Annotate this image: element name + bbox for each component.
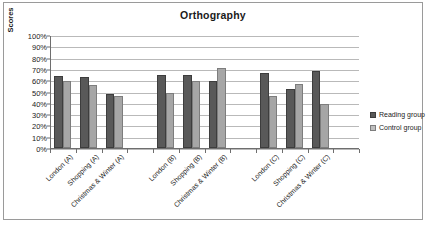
bar <box>89 85 97 148</box>
y-tick-label: 90% <box>32 43 47 52</box>
bar <box>80 77 88 148</box>
bar <box>217 68 225 148</box>
y-tick-label: 60% <box>32 77 47 86</box>
bar <box>312 71 320 148</box>
bar <box>166 93 174 148</box>
x-tick-mark <box>359 149 360 153</box>
bar <box>295 84 303 148</box>
legend-item-reading-group: Reading group <box>370 111 428 118</box>
bar <box>54 76 62 148</box>
bar <box>260 73 268 148</box>
legend-label-reading-group: Reading group <box>379 111 425 118</box>
x-tick-label: Christmas & Winter (B) <box>173 153 229 209</box>
bars-layer <box>50 36 359 149</box>
y-tick-label: 80% <box>32 54 47 63</box>
y-axis-label: Scores <box>6 0 20 43</box>
x-axis-labels: London (A)Shopping (A)Christmas & Winter… <box>50 153 359 223</box>
bar <box>157 75 165 148</box>
y-tick-label: 0% <box>36 145 47 154</box>
bar <box>63 81 71 148</box>
legend-label-control-group: Control group <box>379 124 421 131</box>
bar <box>286 89 294 148</box>
chart-screenshot: Orthography Scores 100%90%80%70%60%50%40… <box>0 0 429 227</box>
bar <box>183 75 191 148</box>
legend-swatch-icon-control-group <box>370 125 376 131</box>
chart-legend: Reading group Control group <box>370 111 428 137</box>
y-tick-label: 70% <box>32 65 47 74</box>
legend-item-control-group: Control group <box>370 124 428 131</box>
y-tick-label: 20% <box>32 122 47 131</box>
y-tick-label: 10% <box>32 133 47 142</box>
chart-title: Orthography <box>4 9 422 21</box>
bar <box>192 81 200 148</box>
bar <box>114 96 122 148</box>
bar <box>106 94 114 148</box>
bar <box>209 81 217 148</box>
x-tick-label: Christmas & Winter (C) <box>275 153 331 209</box>
plot-area: 100%90%80%70%60%50%40%30%20%10%0% <box>50 36 359 149</box>
bar <box>320 104 328 148</box>
y-tick-label: 30% <box>32 111 47 120</box>
y-tick-label: 40% <box>32 99 47 108</box>
y-tick-label: 100% <box>28 32 47 41</box>
legend-swatch-icon-reading-group <box>370 112 376 118</box>
bar <box>269 96 277 148</box>
x-tick-label: Christmas & Winter (A) <box>70 153 126 209</box>
chart-frame: Orthography Scores 100%90%80%70%60%50%40… <box>3 2 423 220</box>
y-tick-label: 50% <box>32 88 47 97</box>
